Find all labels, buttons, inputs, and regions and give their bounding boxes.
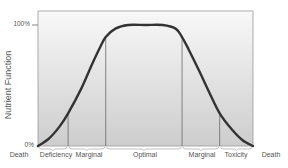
zone-label-optimal: Optimal <box>133 151 157 158</box>
nutrient-function-chart <box>0 0 288 168</box>
zone-label-marginal-right: Marginal <box>189 151 216 158</box>
zone-bracket <box>107 147 181 151</box>
y-axis-label: Nutrient Function <box>3 51 13 120</box>
zone-label-death-right: Death <box>262 151 281 158</box>
zone-label-toxicity: Toxicity <box>225 151 248 158</box>
y-tick-label-100: 100% <box>0 20 30 27</box>
zone-bracket <box>69 147 105 151</box>
zone-bracket <box>183 147 219 151</box>
y-tick-label-0: 0% <box>0 141 34 148</box>
zone-label-marginal-left: Marginal <box>76 151 103 158</box>
plot-area <box>38 11 253 146</box>
zone-label-deficiency: Deficiency <box>40 151 72 158</box>
zone-label-death-left: Death <box>10 151 29 158</box>
zone-brackets <box>39 147 252 151</box>
zone-bracket <box>221 147 252 151</box>
zone-bracket <box>39 147 67 151</box>
